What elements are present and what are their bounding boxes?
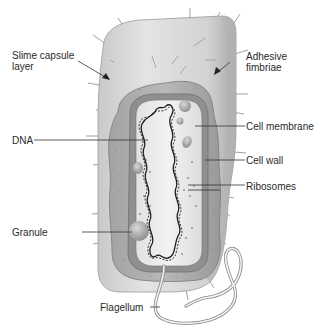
label-adhesive-fimbriae: Adhesive fimbriae xyxy=(246,51,287,73)
cytoplasm xyxy=(136,100,202,266)
inclusion xyxy=(179,100,191,112)
label-ribosomes: Ribosomes xyxy=(246,181,296,192)
label-slime-capsule-layer: Slime capsule layer xyxy=(12,50,74,72)
label-cell-membrane: Cell membrane xyxy=(246,121,314,132)
label-flagellum: Flagellum xyxy=(100,302,143,313)
label-granule: Granule xyxy=(12,227,48,238)
bacterial-cell-diagram: Slime capsule layer Adhesive fimbriae DN… xyxy=(0,0,323,335)
inclusion xyxy=(133,162,143,174)
inclusion xyxy=(177,118,184,125)
label-dna: DNA xyxy=(12,135,33,146)
granule xyxy=(129,221,149,241)
label-cell-wall: Cell wall xyxy=(246,155,283,166)
